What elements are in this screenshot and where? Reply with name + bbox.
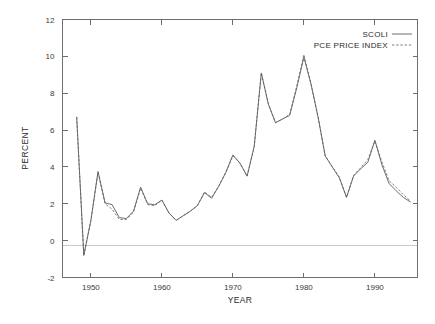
legend-label-pce-price-index: PCE PRICE INDEX (314, 41, 389, 50)
series-line-pce-price-index (77, 55, 411, 256)
plot-frame (63, 20, 418, 278)
x-tick-label: 1980 (295, 283, 313, 292)
legend-label-scoli: SCOLI (362, 30, 388, 39)
line-chart: -2024681012 19501960197019801990 PERCENT… (0, 0, 435, 324)
y-tick-label: 2 (50, 200, 55, 209)
x-axis-title: YEAR (228, 295, 253, 305)
chart-container: -2024681012 19501960197019801990 PERCENT… (0, 0, 435, 324)
y-axis-title: PERCENT (20, 126, 30, 169)
y-tick-label: 10 (46, 52, 55, 61)
legend: SCOLIPCE PRICE INDEX (314, 30, 412, 50)
series-line-scoli (77, 57, 411, 255)
y-tick-label: 8 (50, 89, 55, 98)
x-tick-label: 1990 (366, 283, 384, 292)
x-tick-label: 1960 (153, 283, 171, 292)
y-tick-label: -2 (47, 274, 55, 283)
x-tick-label: 1950 (82, 283, 100, 292)
y-tick-label: 12 (46, 16, 55, 25)
data-series-group (77, 55, 411, 256)
y-tick-label: 6 (50, 126, 55, 135)
x-tick-label: 1970 (224, 283, 242, 292)
y-tick-label: 0 (50, 237, 55, 246)
y-tick-label: 4 (50, 163, 55, 172)
y-axis: -2024681012 (46, 16, 418, 283)
